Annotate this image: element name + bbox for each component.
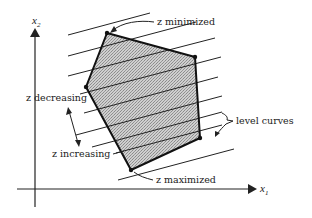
- x1-axis-label: x1: [259, 182, 268, 197]
- x2-arrowhead-icon: [30, 28, 40, 37]
- x1-arrowhead-icon: [248, 184, 257, 194]
- z-increasing-label: z increasing: [52, 148, 110, 159]
- vertex-top: [105, 31, 109, 35]
- z-maximized-label: z maximized: [156, 174, 216, 185]
- z-decreasing-label: z decreasing: [26, 92, 87, 103]
- lp-diagram: x2 x1 z minimized z maximized z decreasi…: [0, 0, 312, 218]
- x2-axis-label: x2: [31, 14, 41, 29]
- level-curves-brace-icon: [215, 113, 233, 137]
- vertex-upper-right: [193, 55, 197, 59]
- vertex-bottom: [129, 168, 133, 172]
- vertex-left: [84, 85, 88, 89]
- vertex-lower-right: [198, 136, 202, 140]
- direction-double-arrow-icon: [66, 107, 81, 147]
- z-minimized-arrowhead-icon: [110, 26, 117, 33]
- z-minimized-label: z minimized: [157, 16, 215, 27]
- level-curves-label: level curves: [236, 115, 294, 126]
- z-minimized-arrow-icon: [112, 21, 154, 31]
